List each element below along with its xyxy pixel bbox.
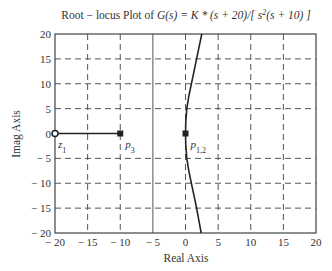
marker-label: z1 bbox=[57, 138, 66, 155]
y-tick-label: − 5 bbox=[37, 152, 52, 164]
x-tick-label: 15 bbox=[278, 236, 290, 248]
y-tick-label: 5 bbox=[46, 103, 52, 115]
x-tick-label: − 10 bbox=[110, 236, 130, 248]
y-tick-label: 20 bbox=[40, 28, 52, 40]
y-tick-label: − 15 bbox=[31, 202, 51, 214]
y-axis-label: Imag Axis bbox=[10, 110, 23, 158]
y-tick-label: − 10 bbox=[31, 177, 51, 189]
zero-marker-icon bbox=[52, 131, 58, 137]
axis-ticks: − 20− 15− 10− 505101520− 20− 15− 10− 505… bbox=[31, 28, 322, 248]
marker-label: p3 bbox=[124, 138, 135, 155]
x-tick-label: − 15 bbox=[78, 236, 98, 248]
x-tick-label: 20 bbox=[311, 236, 323, 248]
y-tick-label: 10 bbox=[40, 78, 52, 90]
x-tick-label: − 5 bbox=[146, 236, 161, 248]
pole-marker-icon bbox=[117, 131, 123, 137]
y-tick-label: 15 bbox=[40, 53, 52, 65]
chart-title: Root − locus Plot of G(s) = K * (s + 20)… bbox=[61, 8, 310, 23]
root-locus-chart: Root − locus Plot of G(s) = K * (s + 20)… bbox=[0, 0, 332, 271]
x-tick-label: 10 bbox=[245, 236, 257, 248]
y-tick-label: 0 bbox=[46, 128, 52, 140]
chart-canvas: Root − locus Plot of G(s) = K * (s + 20)… bbox=[0, 0, 332, 271]
x-tick-label: 5 bbox=[215, 236, 221, 248]
marker-label: p1,2 bbox=[190, 138, 207, 155]
x-tick-label: 0 bbox=[183, 236, 189, 248]
y-tick-label: − 20 bbox=[31, 227, 51, 239]
x-axis-label: Real Axis bbox=[163, 252, 209, 264]
pole-marker-icon bbox=[183, 131, 189, 137]
locus-curves bbox=[55, 34, 202, 233]
